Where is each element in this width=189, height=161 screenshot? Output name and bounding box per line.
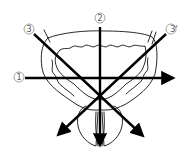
lower-lobe-left	[77, 106, 98, 146]
label-axis-2: 2	[95, 13, 105, 23]
label-axis-3prime-text: 3'	[170, 25, 177, 34]
label-axis-3: 3	[24, 24, 34, 34]
direction-axes	[25, 27, 172, 144]
label-axis-3-text: 3	[26, 25, 31, 34]
ureter-left	[44, 30, 50, 42]
diagram-canvas: 1 2 3 3'	[0, 0, 189, 161]
label-axis-2-text: 2	[97, 14, 102, 23]
label-axis-1: 1	[14, 72, 24, 82]
label-axis-3prime: 3'	[166, 24, 178, 34]
lower-lobe-right	[102, 106, 123, 146]
label-axis-1-text: 1	[16, 73, 21, 82]
